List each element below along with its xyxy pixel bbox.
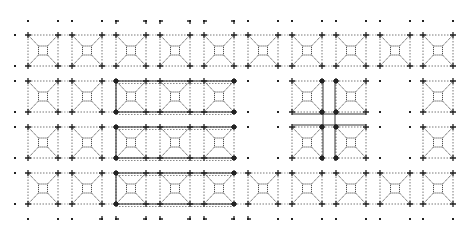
bay-diagonal: [48, 147, 59, 158]
bay-diagonal: [380, 35, 391, 46]
bay-diagonal: [443, 173, 454, 184]
bay-diagonal: [423, 193, 434, 204]
bay-diagonal: [136, 173, 147, 184]
bay-diagonal: [248, 55, 259, 66]
bay-diagonal: [292, 173, 303, 184]
column-dot: [71, 218, 73, 220]
column-dot: [422, 218, 424, 220]
roof-bay: [25, 32, 61, 69]
bay-diagonal: [72, 147, 83, 158]
heavy-column: [334, 110, 338, 114]
bay-diagonal: [72, 81, 83, 92]
roof-bay: [25, 124, 61, 161]
bracket-mark: [116, 216, 119, 219]
bay-diagonal: [136, 55, 147, 66]
column-dot: [409, 126, 411, 128]
bay-diagonal: [443, 81, 454, 92]
bay-diagonal: [92, 193, 103, 204]
bay-diagonal: [180, 127, 191, 138]
bay-diagonal: [92, 101, 103, 112]
bay-diagonal: [292, 127, 303, 138]
bay-center-square: [171, 138, 180, 147]
bay-center-square: [347, 138, 356, 147]
heavy-column: [320, 156, 324, 160]
column-dot: [27, 218, 29, 220]
column-dot: [321, 218, 323, 220]
roof-bay: [333, 32, 369, 69]
bay-center-square: [83, 138, 92, 147]
roof-bay: [420, 78, 456, 115]
bracket-mark: [143, 216, 146, 219]
bay-diagonal: [180, 173, 191, 184]
column-dot: [101, 20, 103, 22]
bay-diagonal: [160, 101, 171, 112]
bay-diagonal: [180, 101, 191, 112]
bay-diagonal: [292, 101, 303, 112]
roof-bay: [113, 32, 149, 69]
bay-diagonal: [48, 81, 59, 92]
bay-diagonal: [48, 127, 59, 138]
roof-bay: [69, 124, 105, 161]
roof-bays: [25, 32, 456, 207]
bracket-mark: [160, 216, 163, 219]
heavy-column: [232, 125, 236, 129]
column-dot: [14, 172, 16, 174]
bay-center-square: [215, 184, 224, 193]
roof-bay: [333, 124, 369, 161]
bay-diagonal: [423, 147, 434, 158]
bay-center-square: [303, 138, 312, 147]
bay-diagonal: [204, 101, 215, 112]
bay-diagonal: [28, 147, 39, 158]
bay-diagonal: [28, 173, 39, 184]
bay-diagonal: [180, 35, 191, 46]
bracket-mark: [160, 21, 163, 24]
bay-diagonal: [268, 35, 279, 46]
bay-diagonal: [443, 35, 454, 46]
bay-diagonal: [204, 127, 215, 138]
column-dot: [57, 20, 59, 22]
column-dot: [57, 218, 59, 220]
column-dot: [365, 218, 367, 220]
column-dot: [379, 157, 381, 159]
column-dot: [247, 80, 249, 82]
edge-brackets: [99, 21, 251, 219]
bay-center-square: [83, 92, 92, 101]
bay-diagonal: [400, 35, 411, 46]
column-dot: [277, 20, 279, 22]
column-dot: [277, 157, 279, 159]
bay-diagonal: [180, 81, 191, 92]
heavy-column: [334, 125, 338, 129]
column-dot: [14, 203, 16, 205]
roof-bay: [69, 78, 105, 115]
bracket-mark: [204, 216, 207, 219]
bay-center-square: [303, 46, 312, 55]
bay-diagonal: [356, 35, 367, 46]
column-dot: [247, 20, 249, 22]
bay-diagonal: [423, 35, 434, 46]
bay-diagonal: [443, 101, 454, 112]
bay-center-square: [215, 92, 224, 101]
column-dot: [247, 126, 249, 128]
bay-center-square: [215, 138, 224, 147]
column-dot: [247, 157, 249, 159]
bay-diagonal: [292, 147, 303, 158]
bay-center-square: [83, 46, 92, 55]
bay-diagonal: [204, 147, 215, 158]
bay-diagonal: [28, 81, 39, 92]
bay-diagonal: [48, 173, 59, 184]
heavy-beam-group: [114, 79, 236, 207]
bay-diagonal: [356, 101, 367, 112]
bay-center-square: [391, 184, 400, 193]
bay-center-square: [39, 46, 48, 55]
roof-bay: [289, 124, 325, 161]
bay-diagonal: [268, 55, 279, 66]
column-dot: [291, 218, 293, 220]
column-dot: [277, 111, 279, 113]
bay-diagonal: [48, 101, 59, 112]
bay-diagonal: [92, 173, 103, 184]
column-dot: [277, 126, 279, 128]
bay-diagonal: [28, 55, 39, 66]
column-dot: [277, 80, 279, 82]
bay-center-square: [39, 138, 48, 147]
bay-diagonal: [92, 81, 103, 92]
